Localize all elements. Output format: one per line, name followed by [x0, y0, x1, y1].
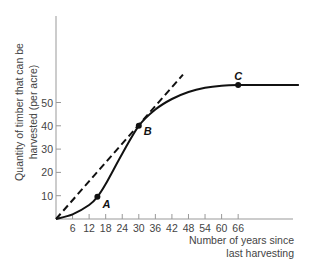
chart-canvas: 6121824303642485460661020304050 ABC	[0, 0, 309, 262]
x-tick-label: 60	[216, 222, 228, 234]
x-tick-label: 42	[166, 222, 178, 234]
x-tick-label: 54	[199, 222, 211, 234]
axes	[56, 16, 293, 219]
x-tick-label: 48	[183, 222, 195, 234]
timber-growth-curve	[56, 85, 299, 219]
y-axis-label-line-1: Quantity of timber that can be	[12, 33, 26, 191]
axis-ticks: 6121824303642485460661020304050	[41, 97, 244, 235]
x-tick-label: 24	[116, 222, 128, 234]
x-tick-label: 6	[70, 222, 76, 234]
point-c-label: C	[234, 70, 243, 82]
x-tick-label: 30	[133, 222, 145, 234]
point-a-label: A	[101, 198, 110, 210]
data-series	[56, 75, 299, 219]
y-tick-label: 10	[41, 190, 53, 202]
y-axis-label: Quantity of timber that can be harvested…	[12, 33, 42, 191]
y-tick-label: 40	[41, 120, 53, 132]
x-tick-label: 12	[83, 222, 95, 234]
y-tick-label: 20	[41, 166, 53, 178]
point-a-marker	[94, 194, 100, 200]
x-tick-label: 36	[150, 222, 162, 234]
y-tick-label: 50	[41, 97, 53, 109]
point-c-marker	[235, 82, 241, 88]
y-tick-label: 30	[41, 143, 53, 155]
x-axis-label: Number of years since last harvesting	[170, 234, 294, 260]
x-axis-label-line-1: Number of years since	[170, 234, 294, 247]
y-axis-label-line-2: harvested (per acre)	[26, 33, 40, 191]
dashed-tangent-line	[56, 75, 183, 219]
x-axis-label-line-2: last harvesting	[170, 247, 294, 260]
point-b-label: B	[144, 125, 152, 137]
x-tick-label: 18	[100, 222, 112, 234]
point-b-marker	[136, 123, 142, 129]
x-tick-label: 66	[232, 222, 244, 234]
